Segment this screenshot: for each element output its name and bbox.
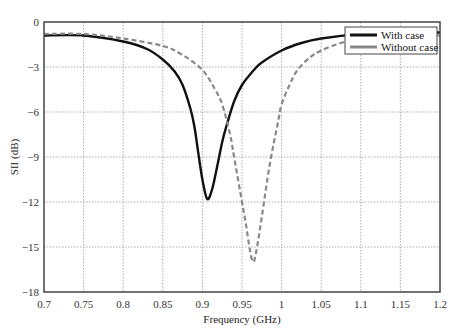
x-tick-label: 1.15 — [391, 298, 411, 310]
x-tick-label: 1.1 — [354, 298, 368, 310]
y-tick-label: −15 — [22, 241, 40, 253]
x-tick-label: 1.2 — [433, 298, 447, 310]
x-tick-label: 1 — [279, 298, 285, 310]
s11-chart: 0.70.750.80.850.90.9511.051.11.151.2 0−3… — [0, 0, 456, 334]
x-tick-label: 0.75 — [74, 298, 94, 310]
x-tick-label: 0.95 — [232, 298, 252, 310]
y-axis-label: SII (dB) — [8, 138, 21, 175]
x-axis-label: Frequency (GHz) — [203, 313, 281, 326]
x-tick-label: 0.8 — [116, 298, 130, 310]
legend-label-without-case: Without case — [381, 41, 438, 53]
x-tick-label: 0.85 — [153, 298, 173, 310]
x-tick-label: 1.05 — [312, 298, 332, 310]
grid-lines — [44, 22, 440, 292]
y-tick-label: −12 — [22, 196, 39, 208]
legend-label-with-case: With case — [381, 29, 424, 41]
y-axis-ticks: 0−3−6−9−12−15−18 — [22, 16, 40, 298]
x-tick-label: 0.9 — [196, 298, 210, 310]
y-tick-label: −9 — [27, 151, 39, 163]
y-tick-label: −6 — [27, 106, 39, 118]
y-tick-label: −18 — [22, 286, 40, 298]
y-tick-label: 0 — [34, 16, 40, 28]
y-tick-label: −3 — [27, 61, 39, 73]
x-axis-ticks: 0.70.750.80.850.90.9511.051.11.151.2 — [37, 298, 447, 310]
x-tick-label: 0.7 — [37, 298, 51, 310]
legend: With case Without case — [345, 27, 438, 54]
